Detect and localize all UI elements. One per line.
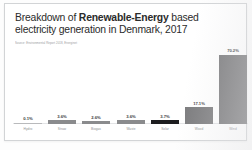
chart-title: Breakdown of Renewable-Energy based elec… (15, 12, 215, 37)
bar-value-label-straw: 3.6% (43, 114, 81, 119)
chart-title-emphasis: Renewable-Energy (79, 12, 169, 23)
bar-column-wood: 17.1%Wood (184, 50, 214, 124)
bar-column-biogas: 2.6%Biogas (81, 50, 111, 124)
chart-title-prefix: Breakdown of (15, 12, 79, 23)
bar-column-waste: 3.6%Waste (116, 50, 146, 124)
bar-value-label-hydro: 0.1% (9, 116, 47, 121)
bar-value-label-biogas: 2.6% (77, 115, 115, 120)
bar-value-label-waste: 3.6% (112, 114, 150, 119)
bar-column-straw: 3.6%Straw (47, 50, 77, 124)
x-axis-label-wind: Wind (212, 127, 252, 131)
chart-source-note: Source: Environmental Report 2018, Energ… (15, 41, 165, 45)
bar-wood[interactable] (185, 107, 213, 124)
bar-waste[interactable] (117, 120, 145, 124)
bar-value-label-solar: 3.7% (146, 114, 184, 119)
bar-solar[interactable] (151, 120, 179, 124)
bar-wind[interactable] (219, 55, 247, 124)
bar-column-hydro: 0.1%Hydro (13, 50, 43, 124)
bar-value-label-wind: 70.2% (214, 48, 252, 53)
bar-straw[interactable] (48, 120, 76, 124)
bar-column-solar: 3.7%Solar (150, 50, 180, 124)
bar-chart-plot-area: 0.1%Hydro3.6%Straw2.6%Biogas3.6%Waste3.7… (13, 50, 248, 136)
bar-value-label-wood: 17.1% (180, 101, 218, 106)
screenshot-root: Breakdown of Renewable-Energy based elec… (0, 0, 252, 150)
chart-card: Breakdown of Renewable-Energy based elec… (4, 3, 247, 141)
bar-biogas[interactable] (82, 121, 110, 124)
bar-column-wind: 70.2%Wind (218, 50, 248, 124)
bar-hydro[interactable] (14, 123, 42, 124)
